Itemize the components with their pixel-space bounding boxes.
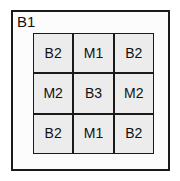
grid-cell-label: B2 <box>45 46 62 61</box>
outer-block-label: B1 <box>17 13 35 30</box>
grid-cell: M2 <box>114 73 154 113</box>
grid-cell: B2 <box>33 114 73 154</box>
grid-cell-label: M1 <box>84 126 103 141</box>
outer-block-b1: B1 B2 M1 B2 M2 B3 M2 B2 <box>11 10 170 171</box>
block-grid: B2 M1 B2 M2 B3 M2 B2 M1 <box>33 33 154 154</box>
grid-cell-label: B2 <box>45 126 62 141</box>
grid-cell-label: B3 <box>85 86 102 101</box>
grid-cell-label: M1 <box>84 46 103 61</box>
grid-cell-label: B2 <box>125 126 142 141</box>
grid-cell: M2 <box>33 73 73 113</box>
grid-cell: B2 <box>114 114 154 154</box>
grid-cell: B2 <box>114 33 154 73</box>
grid-cell-label: M2 <box>43 86 62 101</box>
grid-cell: M1 <box>73 33 113 73</box>
grid-cell-label: B2 <box>125 46 142 61</box>
grid-cell-label: M2 <box>124 86 143 101</box>
grid-cell: B3 <box>73 73 113 113</box>
grid-cell: M1 <box>73 114 113 154</box>
grid-cell: B2 <box>33 33 73 73</box>
diagram-canvas: B1 B2 M1 B2 M2 B3 M2 B2 <box>0 0 180 181</box>
